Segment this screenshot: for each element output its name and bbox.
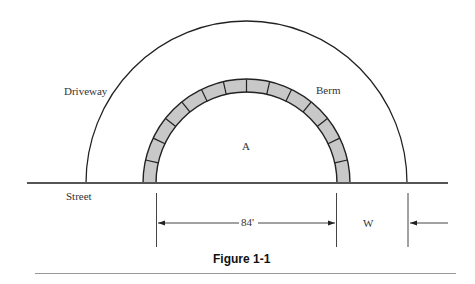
label-driveway: Driveway: [64, 85, 108, 97]
arrowhead-right-icon: [328, 221, 335, 226]
label-dimension-w: W: [363, 217, 374, 229]
label-dimension-84: 84': [241, 216, 254, 228]
label-area-a: A: [242, 140, 250, 152]
figure-caption: Figure 1-1: [213, 252, 271, 266]
label-street: Street: [66, 190, 92, 202]
label-berm: Berm: [316, 84, 341, 96]
driveway-outer-arc: [86, 21, 407, 183]
arrowhead-left-icon: [158, 221, 165, 226]
driveway-berm-diagram: Driveway Berm A Street 84' W Figure 1-1: [0, 0, 475, 284]
arrowhead-w-icon: [410, 221, 417, 226]
